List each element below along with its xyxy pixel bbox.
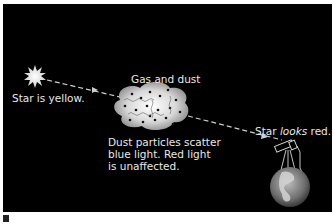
figure-marker — [3, 215, 9, 222]
scatter-note-line2: blue light. Red light — [108, 148, 211, 160]
observed-prefix: Star — [255, 125, 280, 137]
scatter-note-line3: is unaffected. — [108, 160, 180, 172]
observed-label: Star looks red. — [255, 125, 331, 137]
star-burst-icon — [24, 65, 46, 88]
scatter-note-line1: Dust particles scatter — [108, 136, 221, 148]
earth-globe — [270, 167, 310, 207]
cloud-label: Gas and dust — [131, 73, 200, 85]
observed-emphasis: looks — [280, 125, 307, 137]
dust-cloud — [114, 82, 188, 130]
star-source-label: Star is yellow. — [12, 92, 85, 104]
observed-suffix: red. — [307, 125, 331, 137]
diagram-graphics — [0, 0, 334, 224]
